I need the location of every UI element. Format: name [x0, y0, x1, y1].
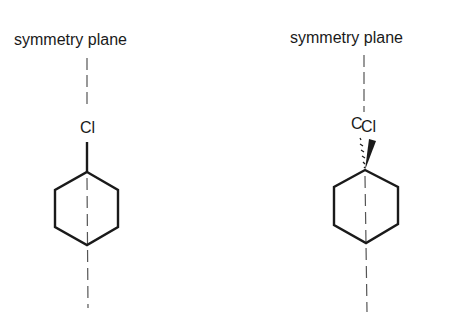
- right-hashed-wedge-bond: [360, 138, 365, 168]
- left-chlorine-atom: Cl: [80, 120, 95, 136]
- right-symmetry-plane-line: [364, 55, 367, 312]
- diagram-canvas: [0, 0, 450, 328]
- right-symmetry-plane-label: symmetry plane: [290, 30, 403, 46]
- right-front-chlorine-atom: Cl: [361, 119, 376, 135]
- left-symmetry-plane-line: [87, 58, 88, 308]
- left-symmetry-plane-label: symmetry plane: [14, 32, 127, 48]
- right-solid-wedge-bond: [365, 139, 376, 170]
